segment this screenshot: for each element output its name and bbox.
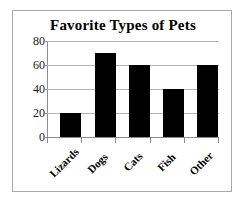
bar-other xyxy=(197,65,218,137)
x-label-cats: Cats xyxy=(121,150,145,174)
x-label-fish: Fish xyxy=(155,151,178,174)
x-label-lizards: Lizards xyxy=(47,145,81,179)
y-tick-label-60: 60 xyxy=(19,59,45,71)
x-axis-tick-labels: Lizards Dogs Cats Fish Other xyxy=(47,143,227,193)
bar-dogs xyxy=(95,53,116,137)
x-label-dogs: Dogs xyxy=(85,151,110,176)
plot-area xyxy=(47,41,219,137)
y-tick-label-80: 80 xyxy=(19,35,45,47)
chart-frame: Favorite Types of Pets 80 60 40 20 0 Liz… xyxy=(12,10,232,192)
y-tick-label-20: 20 xyxy=(19,107,45,119)
bar-fish xyxy=(163,89,184,137)
x-label-other: Other xyxy=(187,149,215,177)
bar-lizards xyxy=(60,113,81,137)
gridline-0 xyxy=(47,137,219,138)
y-tick-label-40: 40 xyxy=(19,83,45,95)
bar-cats xyxy=(129,65,150,137)
chart-title: Favorite Types of Pets xyxy=(13,17,233,34)
y-tick-label-0: 0 xyxy=(19,131,45,143)
gridline-80 xyxy=(47,41,219,42)
y-axis-tick-labels: 80 60 40 20 0 xyxy=(15,41,45,137)
